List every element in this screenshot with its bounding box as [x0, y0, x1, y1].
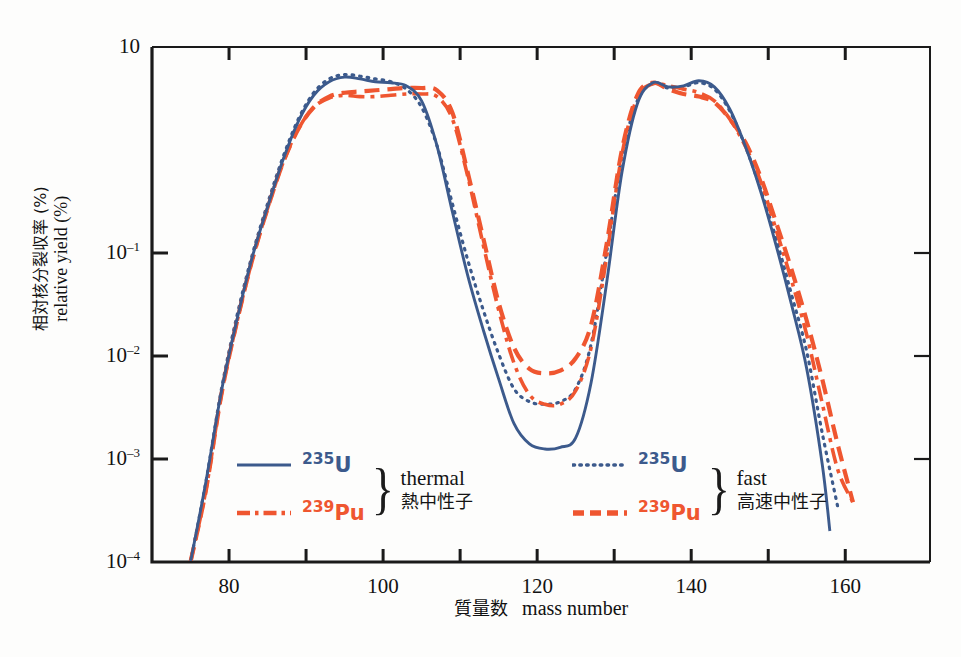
legend-item-u235-fast: 235U	[572, 452, 701, 478]
x-axis-title-jp: 質量数	[454, 598, 508, 619]
legend-thermal: 235U 239Pu } thermal 熱中性子	[236, 452, 473, 526]
legend-condition-fast-jp: 高速中性子	[737, 491, 827, 512]
legend-item-u235-thermal: 235U	[236, 452, 365, 478]
y-tick-mantissa-0: 10	[119, 34, 140, 58]
y-tick-label-4: 10–4	[62, 551, 140, 572]
y-axis-title: 相対核分裂収率 (%) relative yield (%)	[31, 139, 72, 379]
legend-swatch-pu239-fast	[572, 506, 628, 520]
legend-thermal-keys: 235U 239Pu	[236, 452, 365, 526]
legend-condition-thermal-en: thermal	[401, 466, 473, 491]
fission-yield-figure: 1010–110–210–310–4 80100120140160 相対核分裂収…	[0, 0, 961, 657]
y-axis-title-en: relative yield (%)	[51, 139, 73, 379]
x-axis-title: 質量数 mass number	[152, 594, 930, 620]
legend-swatch-pu239-thermal	[236, 506, 292, 520]
legend-brace-fast: }	[708, 466, 730, 511]
legend-label-u235-fast: 235U	[638, 455, 687, 476]
legend-item-pu239-thermal: 239Pu	[236, 500, 365, 526]
legend-swatch-u235-fast	[572, 458, 628, 472]
legend-fast-keys: 235U 239Pu	[572, 452, 701, 526]
y-tick-label-0: 10	[62, 36, 140, 57]
legend-condition-thermal-jp: 熱中性子	[401, 491, 473, 512]
legend-brace-thermal: }	[372, 466, 394, 511]
legend-label-pu239-fast: 239Pu	[638, 503, 701, 524]
legend-swatch-u235-thermal	[236, 458, 292, 472]
legend-label-pu239-thermal: 239Pu	[302, 503, 365, 524]
legend-condition-fast-en: fast	[737, 466, 827, 491]
chart-plot-area	[0, 0, 961, 657]
legend-condition-fast: fast 高速中性子	[737, 466, 827, 512]
y-tick-mantissa-2: 10	[106, 343, 127, 367]
y-tick-exponent-4: –4	[127, 548, 140, 563]
y-tick-exponent-3: –3	[127, 445, 140, 460]
legend-fast: 235U 239Pu } fast 高速中性子	[572, 452, 827, 526]
y-tick-mantissa-4: 10	[106, 549, 127, 573]
y-tick-mantissa-3: 10	[106, 446, 127, 470]
y-tick-exponent-2: –2	[127, 342, 140, 357]
y-tick-label-1: 10–1	[62, 242, 140, 263]
legend-condition-thermal: thermal 熱中性子	[401, 466, 473, 512]
y-tick-label-2: 10–2	[62, 345, 140, 366]
y-tick-exponent-1: –1	[127, 239, 140, 254]
x-axis-title-en: mass number	[522, 597, 628, 619]
y-tick-label-3: 10–3	[62, 448, 140, 469]
legend-label-u235-thermal: 235U	[302, 455, 351, 476]
y-tick-mantissa-1: 10	[106, 240, 127, 264]
legend-item-pu239-fast: 239Pu	[572, 500, 701, 526]
y-axis-title-jp: 相対核分裂収率 (%)	[31, 139, 51, 379]
